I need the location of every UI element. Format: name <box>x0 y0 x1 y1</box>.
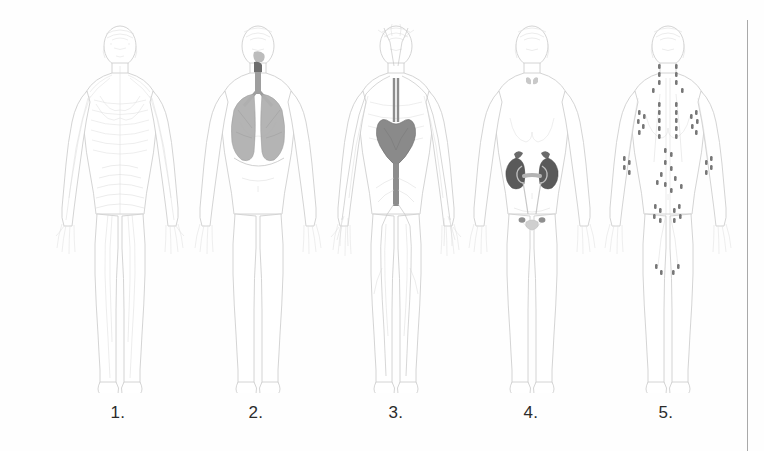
figure-1-muscular-nervous-system <box>50 18 190 393</box>
body-silhouette-4 <box>469 26 595 393</box>
figure-4-svg <box>462 18 602 393</box>
body-silhouette-3 <box>331 26 461 393</box>
figure-caption-5: 5. <box>646 403 686 423</box>
figure-5-svg <box>598 18 738 393</box>
figure-2-svg <box>188 18 328 393</box>
figure-1-svg <box>50 18 190 393</box>
figure-caption-2: 2. <box>236 403 276 423</box>
right-vertical-rule <box>747 20 748 451</box>
figure-3-circulatory-system <box>326 18 466 393</box>
muscle-striation-detail-1 <box>66 30 174 378</box>
figure-caption-1: 1. <box>98 403 138 423</box>
figure-caption-4: 4. <box>511 403 551 423</box>
diagram-sheet: 1. 2. 3. 4. 5. <box>0 0 764 451</box>
figure-caption-3: 3. <box>376 403 416 423</box>
figure-4-urinary-system <box>462 18 602 393</box>
body-silhouette-5 <box>605 26 731 393</box>
figure-5-lymphatic-system <box>598 18 738 393</box>
figure-3-svg <box>326 18 466 393</box>
figure-2-respiratory-system <box>188 18 328 393</box>
